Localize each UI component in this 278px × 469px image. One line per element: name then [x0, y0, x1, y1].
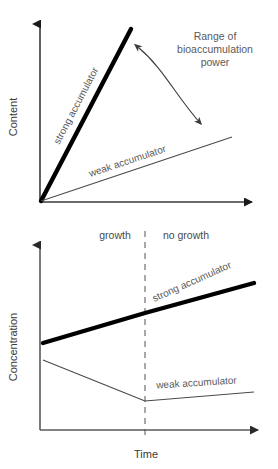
- phase-label-growth: growth: [99, 229, 131, 241]
- bottom-weak-accumulator-label: weak accumulator: [155, 375, 238, 391]
- figure-canvas: Content strong accumulator weak accumula…: [0, 0, 278, 469]
- bioaccumulation-figure: Content strong accumulator weak accumula…: [0, 0, 278, 469]
- range-annotation-line-3: power: [201, 56, 230, 68]
- bottom-y-axis-label: Concentration: [7, 313, 19, 382]
- bottom-x-axis-label: Time: [134, 448, 158, 460]
- bottom-strong-accumulator-line: [43, 283, 254, 343]
- range-annotation-arrow: [139, 48, 201, 124]
- top-weak-accumulator-label: weak accumulator: [86, 143, 168, 180]
- range-annotation-line-2: bioaccumulation: [177, 43, 253, 55]
- range-annotation-line-1: Range of: [194, 30, 237, 42]
- top-y-axis-label: Content: [7, 98, 19, 137]
- top-panel: Content strong accumulator weak accumula…: [7, 24, 253, 202]
- phase-label-no-growth: no growth: [163, 229, 209, 241]
- bottom-strong-accumulator-label: strong accumulator: [151, 259, 234, 304]
- bottom-panel: growth no growth Concentration Time stro…: [7, 229, 258, 460]
